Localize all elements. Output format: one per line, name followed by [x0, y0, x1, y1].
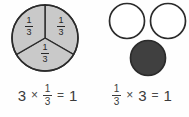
panel-right: 1 3 × 3 = 1 — [95, 0, 189, 117]
equation-result: 1 — [164, 88, 172, 103]
equation-fraction: 1 3 — [43, 84, 52, 107]
fraction-numerator: 1 — [113, 84, 121, 95]
multiply-operator: × — [30, 89, 39, 101]
equation-number: 3 — [138, 88, 146, 103]
circle-empty-1 — [110, 4, 145, 39]
fraction-denominator: 3 — [44, 96, 52, 107]
circle-filled-1 — [131, 41, 166, 76]
pie-thirds-diagram: 1 3 1 3 1 3 — [0, 0, 95, 80]
equation-left: 3 × 1 3 = 1 — [0, 78, 95, 112]
multiply-operator: × — [125, 89, 134, 101]
fraction-numerator: 1 — [44, 84, 52, 95]
equation-result: 1 — [69, 88, 77, 103]
fraction-denominator: 3 — [113, 96, 121, 107]
three-circles-diagram — [95, 0, 189, 80]
equation-right: 1 3 × 3 = 1 — [95, 78, 189, 112]
equation-fraction: 1 3 — [112, 84, 121, 107]
equation-number: 3 — [18, 88, 26, 103]
three-circles-svg — [95, 0, 189, 80]
equals-operator: = — [56, 89, 65, 101]
pie-thirds-svg — [0, 0, 95, 80]
circle-empty-2 — [151, 4, 186, 39]
equals-operator: = — [151, 89, 160, 101]
panel-left: 1 3 1 3 1 3 3 — [0, 0, 95, 117]
fraction-multiplication-figure: 1 3 1 3 1 3 3 — [0, 0, 189, 117]
